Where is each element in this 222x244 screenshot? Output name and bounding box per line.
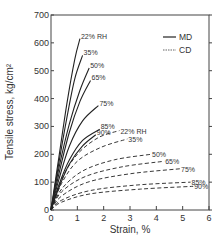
cd-curve xyxy=(51,154,151,210)
curve-label: 50% xyxy=(90,62,104,69)
x-tick-label: 5 xyxy=(180,213,185,223)
curve-label: 35% xyxy=(84,49,98,56)
legend-entry-label: CD xyxy=(179,45,191,55)
curve-labels: 22% RH35%50%65%75%85%90%22% RH35%50%65%7… xyxy=(81,33,208,191)
curve-label: 35% xyxy=(128,136,142,143)
y-tick-label: 700 xyxy=(34,10,49,20)
x-axis-title: Strain, % xyxy=(110,224,151,235)
curve-label: 75% xyxy=(181,166,195,173)
y-tick-label: 300 xyxy=(34,121,49,131)
cd-curve xyxy=(51,161,164,210)
y-axis-title: Tensile stress, kg/cm² xyxy=(4,63,15,160)
tensile-stress-strain-chart: 0100200300400500600700 0123456 22% RH35%… xyxy=(0,0,222,244)
x-tick-label: 4 xyxy=(154,213,159,223)
cd-curve xyxy=(51,182,191,210)
curve-label: 90% xyxy=(97,129,111,136)
x-axis: 0123456 xyxy=(48,206,211,223)
y-tick-label: 200 xyxy=(34,149,49,159)
x-tick-label: 0 xyxy=(48,213,53,223)
curve-label: 65% xyxy=(92,74,106,81)
curve-label: 90% xyxy=(194,183,208,190)
y-tick-label: 400 xyxy=(34,94,49,104)
curve-label: 50% xyxy=(152,151,166,158)
series-layer xyxy=(51,39,193,210)
cd-curve xyxy=(51,186,193,210)
legend-entry-label: MD xyxy=(179,32,192,42)
curve-label: 22% RH xyxy=(81,33,107,40)
x-tick-label: 6 xyxy=(206,213,211,223)
legend: MDCD xyxy=(163,32,192,55)
y-tick-label: 500 xyxy=(34,66,49,76)
x-tick-label: 3 xyxy=(127,213,132,223)
y-tick-label: 100 xyxy=(34,177,49,187)
curve-label: 22% RH xyxy=(120,128,146,135)
curve-label: 75% xyxy=(99,100,113,107)
y-tick-label: 600 xyxy=(34,38,49,48)
cd-curve xyxy=(51,169,180,210)
curve-label: 65% xyxy=(165,158,179,165)
x-tick-label: 1 xyxy=(75,213,80,223)
x-tick-label: 2 xyxy=(101,213,106,223)
